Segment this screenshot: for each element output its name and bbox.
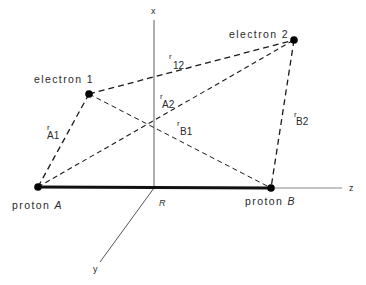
electron-1-dot [85, 90, 93, 98]
proton-a-letter: A [54, 199, 63, 211]
electron-1-label: electron 1 [34, 73, 94, 85]
line-rA1 [38, 94, 89, 187]
distance-lines [38, 40, 294, 188]
line-rB1 [89, 94, 271, 188]
y-axis-label: y [93, 264, 98, 274]
label-rA2: r A2 [160, 92, 175, 110]
electron-2-label: electron 2 [229, 28, 289, 40]
x-axis-label: x [151, 6, 156, 16]
line-rA2 [38, 40, 294, 187]
rA1-sub: A1 [47, 130, 60, 141]
proton-a-dot [34, 183, 42, 191]
origin-label-R: R [159, 198, 166, 208]
line-rB2 [271, 40, 294, 188]
proton-b-label: proton B [245, 195, 296, 207]
r12-sub: 12 [173, 60, 185, 71]
proton-b-prefix: proton [245, 195, 288, 207]
y-axis [100, 188, 154, 262]
label-r12: r 12 [169, 52, 185, 71]
diagram-canvas: x z y R electron 1 electron 2 proton A p… [0, 0, 366, 285]
proton-a-prefix: proton [12, 199, 55, 211]
line-r12 [89, 40, 294, 94]
r12-sym: r [169, 52, 172, 61]
label-rA1: r A1 [47, 123, 60, 141]
z-axis-label: z [349, 183, 354, 193]
rB1-sub: B1 [180, 126, 193, 137]
rB2-sub: B2 [296, 116, 309, 127]
label-rB2: r B2 [294, 110, 309, 127]
electron-2-dot [290, 36, 298, 44]
proton-b-dot [267, 184, 275, 192]
proton-a-label: proton A [12, 199, 63, 211]
proton-b-letter: B [288, 195, 296, 207]
label-rB1: r B1 [177, 119, 193, 137]
rA2-sub: A2 [162, 99, 175, 110]
internuclear-axis [38, 187, 271, 188]
